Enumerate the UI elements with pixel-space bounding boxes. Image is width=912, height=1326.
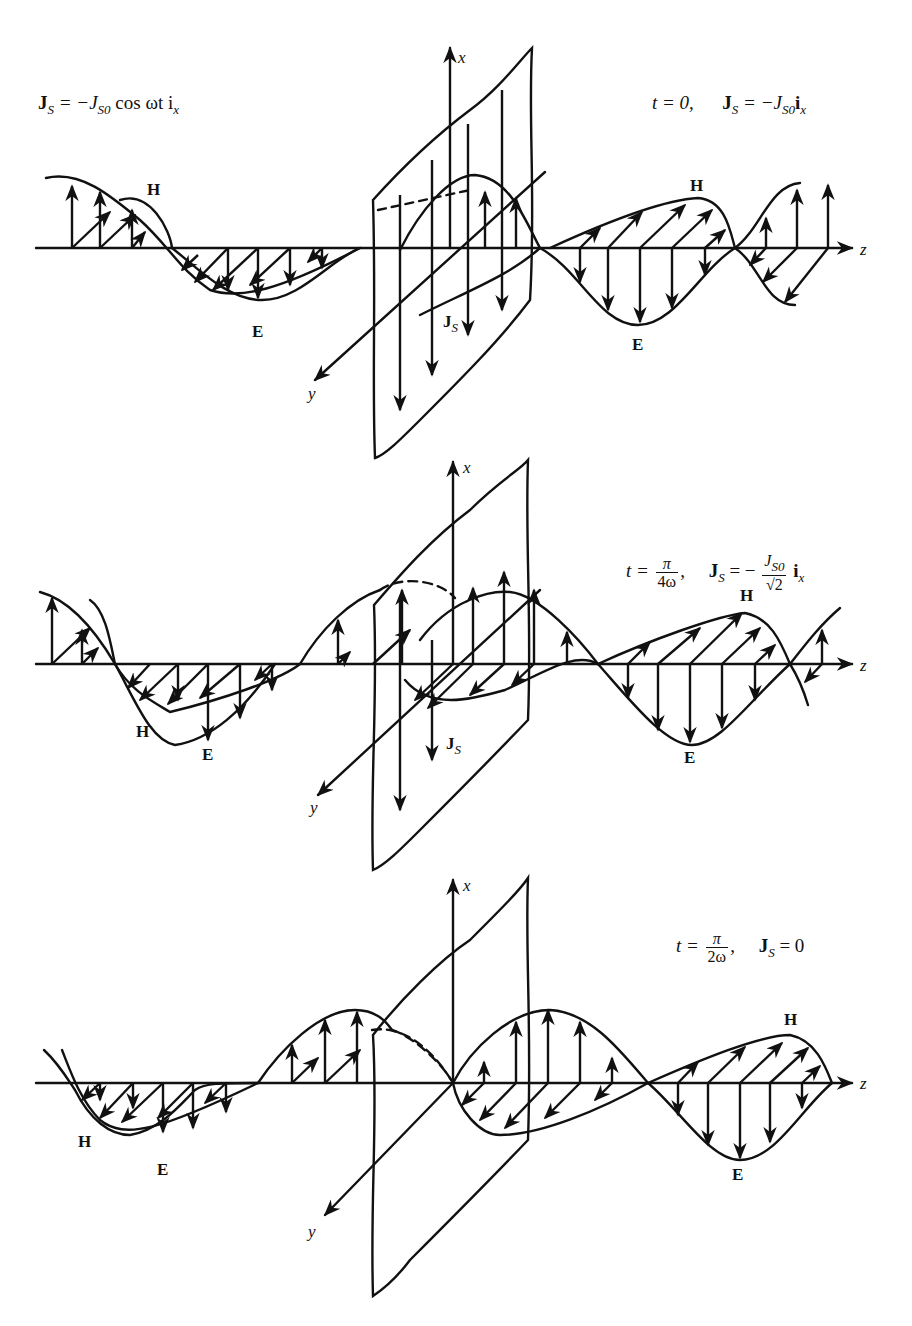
y-axis-label: y: [310, 798, 318, 818]
js-label-symbol: J: [446, 734, 455, 753]
e-label-right: E: [732, 1165, 743, 1185]
y-axis-label: y: [308, 1222, 316, 1242]
h-label-right: H: [784, 1010, 797, 1030]
x-axis-label: x: [458, 48, 466, 68]
h-label-left: H: [78, 1132, 91, 1152]
x-axis-label: x: [463, 876, 471, 896]
js-label-sub: S: [455, 742, 462, 757]
e-label-left: E: [157, 1160, 168, 1180]
js-label: JS: [446, 734, 461, 758]
js-label-sub: S: [452, 320, 459, 335]
js-label-symbol: J: [443, 312, 452, 331]
e-label-left: E: [252, 322, 263, 342]
panel-t-pi-2w-diagram: [0, 870, 912, 1326]
h-label-right: H: [740, 586, 753, 606]
e-label-right: E: [632, 335, 643, 355]
h-label-left: H: [136, 722, 149, 742]
h-label-right: H: [690, 176, 703, 196]
panel-t0-diagram: [0, 0, 912, 470]
z-axis-label: z: [860, 656, 867, 676]
e-label-right: E: [684, 748, 695, 768]
z-axis-label: z: [860, 240, 867, 260]
current-sheet: [373, 48, 532, 458]
h-label-left: H: [147, 180, 160, 200]
js-label: JS: [443, 312, 458, 336]
e-label-left: E: [202, 745, 213, 765]
x-axis-label: x: [463, 458, 471, 478]
z-axis-label: z: [860, 1074, 867, 1094]
y-axis-label: y: [308, 384, 316, 404]
panel-t-pi-4w-diagram: [0, 450, 912, 880]
